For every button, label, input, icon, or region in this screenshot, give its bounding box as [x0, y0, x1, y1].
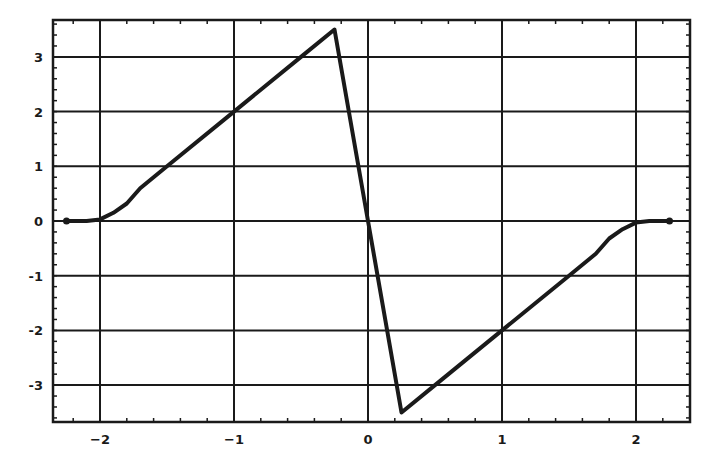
y-tick-label: 3 — [34, 50, 43, 65]
y-tick-label: -2 — [29, 323, 43, 338]
x-tick-label: −1 — [224, 432, 244, 447]
x-tick-label: 0 — [363, 432, 372, 447]
y-axis-tick-labels: -3-2-10123 — [29, 50, 43, 393]
y-tick-label: 1 — [34, 159, 43, 174]
y-tick-label: 0 — [34, 214, 43, 229]
grid-lines — [53, 20, 690, 422]
x-tick-label: −2 — [90, 432, 110, 447]
chart: −2−1012 -3-2-10123 — [0, 0, 707, 465]
x-tick-label: 1 — [497, 432, 506, 447]
y-tick-label: 2 — [34, 105, 43, 120]
x-axis-tick-labels: −2−1012 — [90, 432, 641, 447]
endpoint-marker — [63, 218, 70, 225]
x-tick-label: 2 — [631, 432, 640, 447]
y-tick-label: -3 — [29, 378, 43, 393]
y-tick-label: -1 — [29, 269, 43, 284]
endpoint-marker — [666, 218, 673, 225]
